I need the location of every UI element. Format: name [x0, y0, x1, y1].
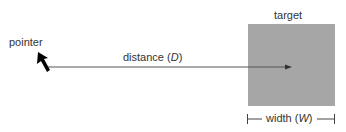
arrow-head-icon: [285, 65, 292, 70]
width-label: width (W): [266, 112, 312, 124]
cursor-arrow-icon: [37, 52, 50, 72]
